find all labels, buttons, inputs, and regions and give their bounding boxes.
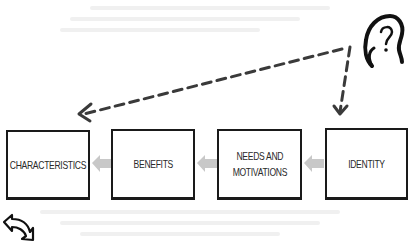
box-label-benefits: BENEFITS (133, 156, 172, 172)
box-label-characteristics: CHARACTERISTICS (10, 157, 86, 173)
diagram-canvas (0, 0, 408, 246)
dashed-arrow-to-identity (340, 47, 350, 112)
box-label-needs-and-motivations: NEEDS AND MOTIVATIONS (232, 148, 286, 180)
box-identity: IDENTITY (325, 128, 408, 200)
box-label-identity: IDENTITY (348, 156, 385, 172)
box-characteristics: CHARACTERISTICS (6, 130, 90, 200)
curved-arrow-icon (4, 215, 33, 240)
flow-arrow-benefits-to-characteristics (92, 155, 111, 172)
flow-arrow-needs-to-benefits (197, 155, 217, 172)
dashed-arrow-to-characteristics (84, 49, 342, 114)
flow-arrow-identity-to-needs (304, 155, 324, 172)
box-benefits: BENEFITS (111, 129, 195, 200)
head-question-mark-icon (365, 16, 402, 66)
box-needs-and-motivations: NEEDS AND MOTIVATIONS (217, 129, 302, 200)
